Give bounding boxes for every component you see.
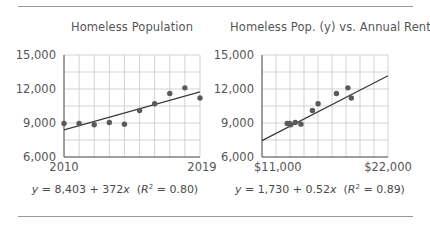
x-tick-label: $22,000 [364, 160, 412, 174]
trendline [262, 76, 388, 141]
trendline [64, 92, 200, 130]
data-point [310, 108, 315, 113]
data-point [349, 95, 354, 100]
eq-open: ( [130, 183, 141, 196]
y-tick-label: 6,000 [221, 150, 254, 164]
y-tick-label: 9,000 [23, 116, 56, 130]
eq-body: = 8,403 + 372 [38, 183, 123, 196]
data-point [315, 101, 320, 106]
data-point [334, 91, 339, 96]
y-tick-label: 9,000 [221, 116, 254, 130]
data-point [345, 85, 350, 90]
left-scatter-plot: 6,0009,00012,00015,00020102019 [16, 48, 217, 174]
y-tick-label: 15,000 [214, 48, 254, 62]
eq-open: ( [337, 183, 348, 196]
x-tick-label: 2019 [187, 160, 216, 174]
data-point [92, 122, 97, 127]
data-point [288, 122, 293, 127]
data-point [76, 121, 81, 126]
data-point [152, 101, 157, 106]
data-point [61, 121, 66, 126]
eq-body: = 1,730 + 0.52 [242, 183, 330, 196]
eq-r: R [141, 183, 149, 196]
data-point [122, 121, 127, 126]
data-point [182, 85, 187, 90]
x-tick-label: 2010 [49, 160, 78, 174]
data-point [298, 121, 303, 126]
data-point [137, 108, 142, 113]
x-tick-label: $11,000 [254, 160, 302, 174]
data-point [197, 95, 202, 100]
data-point [167, 91, 172, 96]
eq-close: = 0.80) [153, 183, 198, 196]
right-regression-equation: y = 1,730 + 0.52x (R2 = 0.89) [225, 183, 415, 196]
y-tick-label: 15,000 [16, 48, 56, 62]
left-regression-equation: y = 8,403 + 372x (R2 = 0.80) [20, 183, 210, 196]
y-tick-label: 12,000 [16, 82, 56, 96]
y-tick-label: 12,000 [214, 82, 254, 96]
right-scatter-plot: 6,0009,00012,00015,000$11,000$22,000 [214, 48, 412, 174]
data-point [293, 120, 298, 125]
data-point [107, 120, 112, 125]
eq-close: = 0.89) [360, 183, 405, 196]
